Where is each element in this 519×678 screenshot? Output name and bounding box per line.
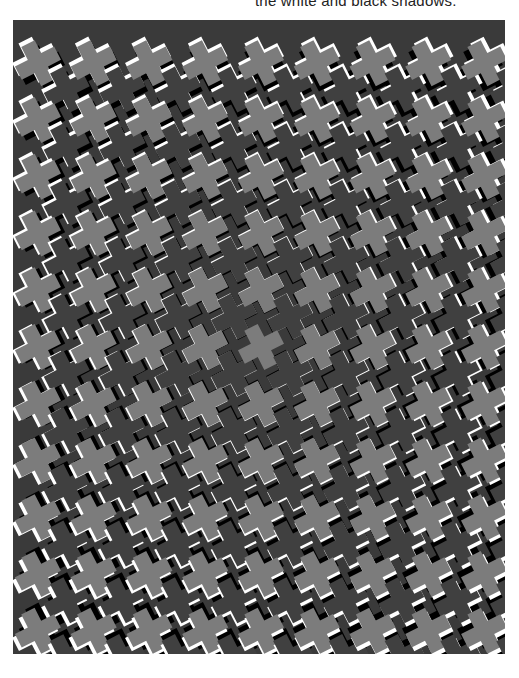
figure-caption: the white and black shadows. bbox=[255, 0, 457, 9]
cross-pattern-figure bbox=[13, 20, 505, 654]
cross-pattern-svg bbox=[13, 20, 505, 654]
